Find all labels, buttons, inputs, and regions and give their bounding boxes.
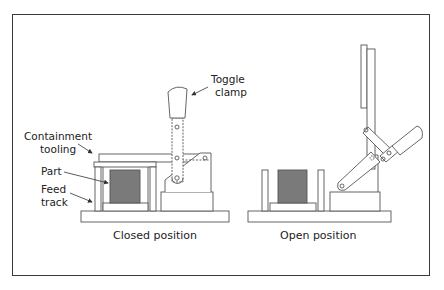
closed-assembly — [81, 87, 229, 222]
containment-label-line1: Containment — [24, 130, 92, 143]
containment-label-line2: tooling — [24, 143, 92, 156]
open-assembly — [248, 45, 422, 222]
closed-position-caption: Closed position — [113, 229, 197, 242]
toggle-label-line2: clamp — [211, 86, 247, 99]
part-label: Part — [41, 165, 62, 178]
toggle-clamp-label: Toggle clamp — [211, 73, 247, 99]
feed-label-line2: track — [41, 196, 68, 209]
feed-track-label: Feed track — [41, 183, 68, 209]
containment-tooling-label: Containment tooling — [24, 130, 92, 156]
open-position-caption: Open position — [280, 229, 356, 242]
toggle-label-line1: Toggle — [211, 73, 247, 86]
feed-label-line1: Feed — [41, 183, 68, 196]
